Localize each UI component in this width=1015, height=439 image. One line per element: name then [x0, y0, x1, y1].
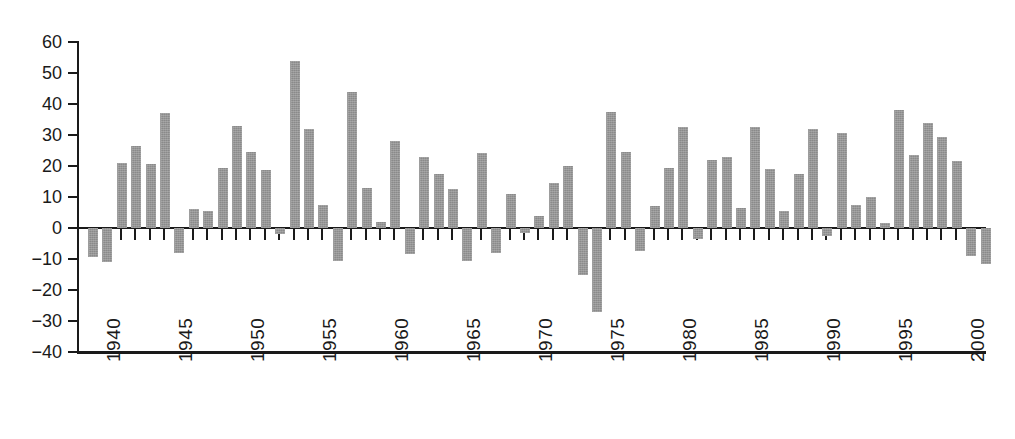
- y-axis-tick: [68, 196, 78, 198]
- x-axis-tick-label: 1970: [536, 318, 555, 362]
- x-axis-tick-label: 1990: [824, 318, 843, 362]
- bar: [362, 188, 372, 228]
- y-axis-tick: [68, 134, 78, 136]
- y-axis-tick-label: −40: [0, 343, 62, 361]
- bar: [232, 126, 242, 228]
- bar: [837, 133, 847, 228]
- bar: [189, 209, 199, 228]
- bar: [261, 170, 271, 228]
- y-axis-tick: [68, 165, 78, 167]
- bar: [664, 168, 674, 228]
- bar: [419, 157, 429, 228]
- x-axis-tick-label: 1955: [320, 318, 339, 362]
- bar: [736, 208, 746, 228]
- bar: [117, 163, 127, 228]
- bar: [563, 166, 573, 228]
- bar: [880, 223, 890, 228]
- bar: [304, 129, 314, 228]
- x-axis-tick-label: 1985: [752, 318, 771, 362]
- bar: [966, 228, 976, 256]
- bar-series: [78, 42, 985, 352]
- bar: [203, 211, 213, 228]
- bar: [318, 205, 328, 228]
- bar: [765, 169, 775, 228]
- y-axis-tick-label: −20: [0, 281, 62, 299]
- y-axis-tick: [68, 258, 78, 260]
- bar: [160, 113, 170, 228]
- bar: [275, 228, 285, 234]
- bar: [102, 228, 112, 262]
- bar: [578, 228, 588, 275]
- bar: [434, 174, 444, 228]
- bar: [750, 127, 760, 228]
- bar: [448, 189, 458, 228]
- bar: [621, 152, 631, 228]
- bar: [333, 228, 343, 261]
- bar: [851, 205, 861, 228]
- bar: [981, 228, 991, 264]
- y-axis-tick-label: 40: [0, 95, 62, 113]
- x-axis-tick-label: 1975: [608, 318, 627, 362]
- bar: [405, 228, 415, 254]
- bar: [520, 228, 530, 233]
- bar: [952, 161, 962, 228]
- x-axis-tick-label: 1940: [104, 318, 123, 362]
- bar: [923, 123, 933, 228]
- bar-chart: 6050403020100−10−20−30−40 19401945195019…: [0, 0, 1015, 439]
- y-axis-tick-label: 60: [0, 33, 62, 51]
- bar: [635, 228, 645, 251]
- bar: [693, 228, 703, 239]
- x-axis-tick-label: 2000: [968, 318, 987, 362]
- bar: [606, 112, 616, 228]
- bar: [822, 228, 832, 236]
- bar: [722, 157, 732, 228]
- bar: [146, 164, 156, 228]
- bar: [88, 228, 98, 257]
- bar: [174, 228, 184, 253]
- bar: [534, 216, 544, 228]
- bar: [218, 168, 228, 228]
- y-axis-tick-label: −30: [0, 312, 62, 330]
- y-axis-tick-label: 10: [0, 188, 62, 206]
- bar: [246, 152, 256, 228]
- bar: [462, 228, 472, 261]
- bar: [794, 174, 804, 228]
- bar: [678, 127, 688, 228]
- bar: [506, 194, 516, 228]
- y-axis-tick: [68, 103, 78, 105]
- y-axis-tick-label: 0: [0, 219, 62, 237]
- bar: [549, 183, 559, 228]
- bar: [808, 129, 818, 228]
- x-axis-tick-label: 1965: [464, 318, 483, 362]
- bar: [779, 211, 789, 228]
- bar: [290, 61, 300, 228]
- y-axis-tick-label: −10: [0, 250, 62, 268]
- y-axis-tick: [68, 320, 78, 322]
- y-axis-tick: [68, 72, 78, 74]
- bar: [491, 228, 501, 253]
- bar: [390, 141, 400, 228]
- bar: [707, 160, 717, 228]
- x-axis-tick-label: 1995: [896, 318, 915, 362]
- bar: [347, 92, 357, 228]
- bar: [937, 137, 947, 228]
- x-axis-tick-label: 1960: [392, 318, 411, 362]
- x-axis-tick-label: 1945: [176, 318, 195, 362]
- x-axis-tick-label: 1950: [248, 318, 267, 362]
- x-axis-tick-label: 1980: [680, 318, 699, 362]
- y-axis-tick: [68, 41, 78, 43]
- bar: [592, 228, 602, 312]
- bar: [131, 146, 141, 228]
- bar: [894, 110, 904, 228]
- bar: [477, 153, 487, 228]
- y-axis-tick-label: 20: [0, 157, 62, 175]
- y-axis-tick-label: 30: [0, 126, 62, 144]
- bar: [866, 197, 876, 228]
- bar: [376, 222, 386, 228]
- bar: [650, 206, 660, 228]
- y-axis-tick: [68, 289, 78, 291]
- y-axis-tick-label: 50: [0, 64, 62, 82]
- bar: [909, 155, 919, 228]
